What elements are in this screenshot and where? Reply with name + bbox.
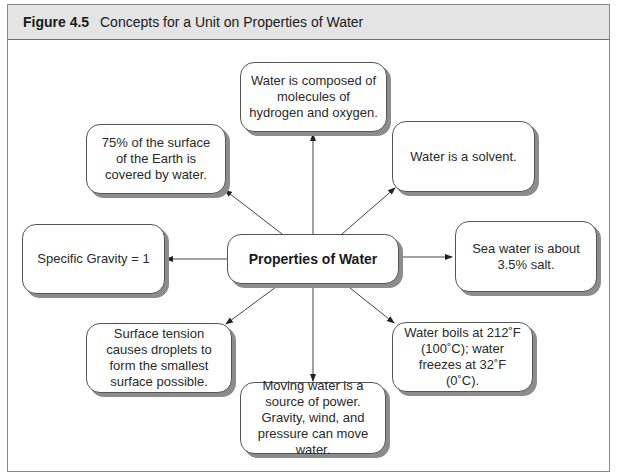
node-boiling-freezing: Water boils at 212˚F (100˚C); water free… <box>392 322 533 392</box>
arrow-to-top-right <box>342 188 395 234</box>
arrow-to-bottom-left <box>226 284 280 324</box>
arrow-to-top-left <box>225 190 282 234</box>
node-earth-coverage: 75% of the surface of the Earth is cover… <box>86 124 226 194</box>
node-moving-water: Moving water is a source of power. Gravi… <box>240 382 386 454</box>
center-node: Properties of Water <box>227 234 399 284</box>
node-sea-water: Sea water is about 3.5% salt. <box>455 221 597 292</box>
arrow-to-bottom-right <box>345 284 394 323</box>
node-composition: Water is composed of molecules of hydrog… <box>240 62 387 132</box>
node-solvent: Water is a solvent. <box>392 121 535 192</box>
node-surface-tension: Surface tension causes droplets to form … <box>86 323 232 393</box>
node-specific-gravity: Specific Gravity = 1 <box>22 224 165 294</box>
